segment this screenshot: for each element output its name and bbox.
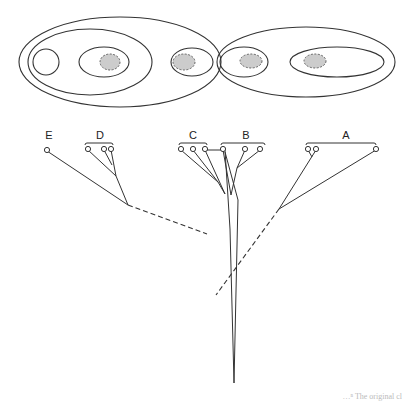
caption-fragment: …ⁿ The original cl <box>0 392 402 401</box>
node-C1 <box>178 146 183 151</box>
set-E <box>33 49 59 75</box>
node-C2 <box>190 146 195 151</box>
node-D2 <box>101 146 106 151</box>
node-D1 <box>85 146 90 151</box>
dashed-A-to-main <box>216 209 279 295</box>
shaded-C <box>173 54 195 70</box>
node-E <box>44 147 49 152</box>
shaded-D <box>100 54 120 70</box>
dashed-connections <box>128 205 279 295</box>
nested-sets <box>19 17 395 107</box>
node-A2 <box>313 146 318 151</box>
set-E-D <box>28 29 152 95</box>
taxon-labels: E D C B A <box>45 129 350 141</box>
label-C: C <box>189 129 197 141</box>
label-E: E <box>45 129 52 141</box>
bracket-A <box>306 143 376 145</box>
diagram-canvas: E D C B A <box>0 0 402 401</box>
group-brackets <box>85 143 376 145</box>
label-A: A <box>342 129 350 141</box>
node-B3 <box>257 146 262 151</box>
bracket-C <box>179 143 207 145</box>
node-D3 <box>108 146 113 151</box>
set-A <box>290 47 384 77</box>
bracket-D <box>85 143 113 145</box>
bracket-B <box>221 143 265 145</box>
label-B: B <box>242 129 249 141</box>
shaded-A <box>304 54 326 68</box>
node-B2 <box>242 146 247 151</box>
label-D: D <box>96 129 104 141</box>
node-A1 <box>305 146 310 151</box>
node-B1 <box>220 146 225 151</box>
node-A3 <box>373 146 378 151</box>
dashed-ED-to-main <box>128 205 207 234</box>
tree-branches <box>47 150 376 383</box>
shaded-B <box>240 54 262 68</box>
node-C3 <box>202 146 207 151</box>
